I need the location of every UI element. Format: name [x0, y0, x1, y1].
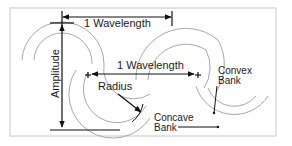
concave-bank-label-line2: Bank	[154, 122, 178, 133]
radius-label: Radius	[98, 80, 133, 92]
convex-bank-label-line2: Bank	[218, 75, 242, 86]
wavelength-mid-dimension: 1 Wavelength	[85, 59, 201, 78]
amplitude-dimension: Amplitude	[49, 23, 120, 130]
wavelength-top-dimension: 1 Wavelength	[62, 11, 172, 29]
radius-annotation: Radius	[98, 80, 143, 122]
meander-diagram: 1 Wavelength Amplitude 1 Wavelength Radi…	[0, 0, 292, 146]
wavelength-top-label: 1 Wavelength	[84, 17, 151, 29]
convex-bank-annotation: Convex Bank	[213, 65, 252, 114]
wavelength-mid-label: 1 Wavelength	[117, 59, 184, 71]
amplitude-label: Amplitude	[49, 49, 61, 98]
concave-bank-annotation: Concave Bank	[154, 112, 219, 133]
